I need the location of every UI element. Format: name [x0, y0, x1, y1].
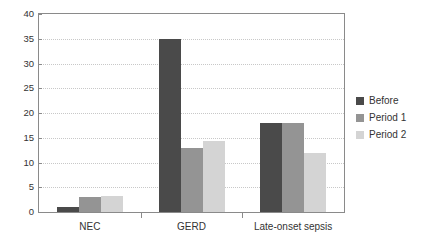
- y-tick-label: 20: [2, 108, 34, 118]
- bar: [57, 207, 79, 212]
- y-tick-mark: [38, 88, 42, 89]
- bars-layer: [39, 14, 344, 212]
- y-tick-label: 35: [2, 34, 34, 44]
- legend-item[interactable]: Period 2: [356, 126, 426, 143]
- bar: [203, 141, 225, 212]
- y-tick-label: 5: [2, 183, 34, 193]
- bar: [101, 196, 123, 212]
- bar: [181, 148, 203, 212]
- x-tick-label: GERD: [177, 222, 206, 232]
- legend-swatch-icon: [356, 114, 364, 122]
- bar: [79, 197, 101, 212]
- legend-label: Period 1: [369, 113, 406, 123]
- y-tick-label: 25: [2, 84, 34, 94]
- bar-group: [260, 14, 326, 212]
- y-tick-mark: [38, 212, 42, 213]
- y-tick-label: 15: [2, 133, 34, 143]
- y-tick-label: 40: [2, 9, 34, 19]
- legend-swatch-icon: [356, 97, 364, 105]
- bar: [159, 39, 181, 212]
- x-tick-label: Late-onset sepsis: [254, 222, 332, 232]
- y-tick-mark: [38, 39, 42, 40]
- y-tick-mark: [38, 187, 42, 188]
- y-tick-label: 0: [2, 207, 34, 217]
- legend-item[interactable]: Period 1: [356, 109, 426, 126]
- bar: [260, 123, 282, 212]
- bar-group: [159, 14, 225, 212]
- x-tick-mark: [242, 213, 243, 218]
- bar: [282, 123, 304, 212]
- y-tick-mark: [38, 138, 42, 139]
- plot-area: [38, 13, 345, 213]
- legend-label: Period 2: [369, 130, 406, 140]
- y-tick-label: 30: [2, 59, 34, 69]
- y-axis: 0510152025303540: [0, 13, 34, 213]
- y-tick-label: 10: [2, 158, 34, 168]
- y-tick-mark: [38, 14, 42, 15]
- legend-swatch-icon: [356, 131, 364, 139]
- x-tick-mark: [141, 213, 142, 218]
- legend: BeforePeriod 1Period 2: [356, 92, 426, 143]
- legend-label: Before: [369, 96, 398, 106]
- x-tick-label: NEC: [79, 222, 100, 232]
- bar-chart: 0510152025303540 BeforePeriod 1Period 2 …: [0, 0, 427, 250]
- y-tick-mark: [38, 113, 42, 114]
- bar-group: [57, 14, 123, 212]
- y-tick-mark: [38, 163, 42, 164]
- bar: [304, 153, 326, 212]
- legend-item[interactable]: Before: [356, 92, 426, 109]
- y-tick-mark: [38, 64, 42, 65]
